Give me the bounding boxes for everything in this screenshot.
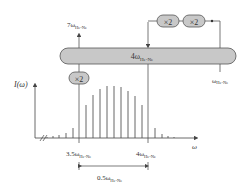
y-axis-label: I(ω) xyxy=(13,80,28,89)
spectral-lines xyxy=(47,86,174,138)
doubler-right-1-label: ×2 xyxy=(164,18,173,27)
x-axis-label: ω xyxy=(192,143,197,151)
top-output-label: 7ωHe-Ne xyxy=(67,21,87,30)
input-label: ωHe-Ne xyxy=(212,77,228,85)
tick-right-label: 4ωHe-Ne xyxy=(136,150,156,159)
doubler-right-2-label: ×2 xyxy=(190,18,199,27)
span-label: 0.5ωHe-Ne xyxy=(97,174,122,183)
tick-left-label: 3.5ωHe-Ne xyxy=(66,150,91,159)
doubler-left-label: ×2 xyxy=(75,75,84,84)
frequency-comb-diagram: ×2 ×2 4ωHe-Ne ωHe-Ne 7ωHe-Ne ×2 I(ω) ω 3… xyxy=(0,0,246,188)
